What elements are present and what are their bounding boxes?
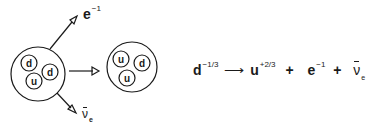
electron-label: e−1 (83, 7, 101, 21)
equation-antineutrino-subscript: e (361, 74, 365, 81)
product-quark-charge: +2/3 (260, 60, 276, 69)
equation-antineutrino-symbol: ν (353, 62, 360, 78)
quark-label: d (47, 67, 53, 78)
electron-charge: −1 (92, 4, 101, 13)
plus-sign: + (333, 62, 341, 78)
reactant-charge: −1/3 (203, 60, 219, 69)
antineutrino-symbol: ν (82, 108, 88, 120)
quark-label: d (26, 58, 32, 69)
decay-equation: d−1/3 ⟶ u+2/3 + e−1 + νe (193, 62, 365, 78)
equation-electron-symbol: e (307, 62, 315, 78)
product-quark-symbol: u (250, 62, 259, 78)
reaction-arrow: ⟶ (224, 62, 244, 78)
quark-label: u (118, 54, 124, 65)
transition-arrow-head (92, 67, 99, 75)
electron-symbol: e (83, 6, 91, 22)
antineutrino-subscript: e (89, 116, 93, 123)
reactant-symbol: d (193, 62, 202, 78)
quark-label: u (31, 76, 37, 87)
quark-label: d (139, 58, 145, 69)
quark-label: u (124, 73, 130, 84)
neutrino-arrow-line (57, 93, 71, 108)
electron-arrow-line (50, 22, 72, 49)
equation-electron-charge: −1 (316, 60, 325, 69)
plus-sign: + (285, 62, 293, 78)
antineutrino-label: νe (82, 108, 93, 120)
